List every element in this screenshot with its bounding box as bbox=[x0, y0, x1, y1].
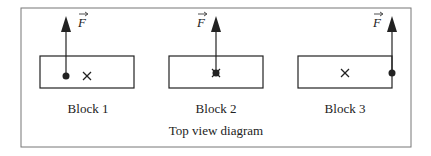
block-1-label: Block 1 bbox=[68, 101, 109, 116]
block-2-label: Block 2 bbox=[196, 101, 237, 116]
block-3-label: Block 3 bbox=[325, 101, 366, 116]
force-point-1 bbox=[63, 73, 70, 80]
block-1: F Block 1 bbox=[40, 12, 134, 116]
top-view-diagram: F Block 1 F Block 2 F Block 3 Top view d… bbox=[0, 0, 431, 156]
center-x-icon bbox=[83, 72, 91, 80]
diagram-caption: Top view diagram bbox=[169, 123, 263, 138]
block-3-rect bbox=[298, 56, 392, 88]
force-label-3: F bbox=[372, 15, 382, 30]
force-label-2: F bbox=[196, 15, 206, 30]
block-1-rect bbox=[40, 56, 134, 88]
block-3: F Block 3 bbox=[298, 12, 397, 116]
block-2: F Block 2 bbox=[169, 12, 263, 116]
arrowhead-icon bbox=[61, 16, 71, 32]
force-label-1: F bbox=[77, 15, 87, 30]
force-point-3 bbox=[389, 70, 396, 77]
arrowhead-icon bbox=[387, 16, 397, 32]
center-x-icon bbox=[341, 69, 349, 77]
arrowhead-icon bbox=[211, 16, 221, 32]
